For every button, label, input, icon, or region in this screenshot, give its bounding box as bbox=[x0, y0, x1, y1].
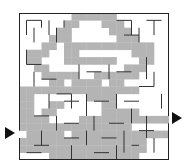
solution-cell bbox=[139, 116, 147, 124]
solution-cell bbox=[124, 28, 132, 36]
solution-cell bbox=[102, 42, 110, 50]
solution-cell bbox=[139, 42, 147, 50]
solution-cell bbox=[102, 94, 110, 102]
solution-cell bbox=[109, 145, 117, 153]
solution-cell bbox=[117, 35, 125, 43]
solution-cell bbox=[64, 35, 72, 43]
solution-cell bbox=[42, 116, 50, 124]
solution-cell bbox=[162, 116, 170, 124]
solution-cell bbox=[64, 50, 72, 58]
solution-cell bbox=[49, 138, 57, 146]
solution-cell bbox=[102, 109, 110, 117]
solution-cell bbox=[87, 116, 95, 124]
solution-cell bbox=[72, 20, 80, 28]
solution-cell bbox=[132, 153, 140, 160]
solution-cell bbox=[34, 138, 42, 146]
solution-cell bbox=[102, 153, 110, 160]
solution-cell bbox=[109, 94, 117, 102]
solution-cell bbox=[49, 35, 57, 43]
solution-cell bbox=[34, 57, 42, 65]
solution-cell bbox=[132, 64, 140, 72]
solution-cell bbox=[49, 109, 57, 117]
solution-cell bbox=[162, 131, 170, 139]
solution-cell bbox=[79, 138, 87, 146]
solution-cell bbox=[72, 42, 80, 50]
solution-cell bbox=[79, 116, 87, 124]
solution-cell bbox=[79, 145, 87, 153]
solution-cell bbox=[109, 101, 117, 109]
solution-cell bbox=[27, 109, 35, 117]
solution-cell bbox=[49, 79, 57, 87]
solution-cell bbox=[124, 153, 132, 160]
solution-cell bbox=[72, 123, 80, 131]
solution-cell bbox=[27, 131, 35, 139]
solution-cell bbox=[139, 131, 147, 139]
solution-cell bbox=[94, 138, 102, 146]
solution-cell bbox=[79, 153, 87, 160]
solution-cell bbox=[87, 13, 95, 21]
solution-cell bbox=[57, 153, 65, 160]
solution-cell bbox=[87, 79, 95, 87]
solution-cell bbox=[27, 123, 35, 131]
solution-cell bbox=[124, 64, 132, 72]
solution-cell bbox=[109, 42, 117, 50]
solution-cell bbox=[94, 145, 102, 153]
solution-cell bbox=[42, 42, 50, 50]
maze-board[interactable] bbox=[19, 13, 169, 160]
solution-cell bbox=[109, 138, 117, 146]
solution-cell bbox=[94, 153, 102, 160]
solution-cell bbox=[102, 101, 110, 109]
solution-cell bbox=[124, 131, 132, 139]
solution-cell bbox=[87, 131, 95, 139]
solution-cell bbox=[124, 109, 132, 117]
solution-cell bbox=[27, 138, 35, 146]
solution-cell bbox=[117, 109, 125, 117]
solution-cell bbox=[64, 42, 72, 50]
solution-cell bbox=[109, 72, 117, 80]
solution-cell bbox=[109, 79, 117, 87]
solution-cell bbox=[34, 116, 42, 124]
solution-cell bbox=[117, 79, 125, 87]
solution-cell bbox=[109, 87, 117, 95]
solution-cell bbox=[72, 138, 80, 146]
solution-cell bbox=[94, 79, 102, 87]
solution-cell bbox=[49, 72, 57, 80]
solution-cell bbox=[49, 101, 57, 109]
solution-cell bbox=[49, 87, 57, 95]
solution-cell bbox=[19, 138, 27, 146]
solution-cell bbox=[64, 28, 72, 36]
solution-cell bbox=[64, 138, 72, 146]
solution-cell bbox=[64, 153, 72, 160]
solution-cell bbox=[94, 42, 102, 50]
solution-cell bbox=[49, 145, 57, 153]
solution-cell bbox=[147, 50, 155, 58]
solution-cell bbox=[117, 42, 125, 50]
solution-cell bbox=[42, 123, 50, 131]
solution-cell bbox=[57, 138, 65, 146]
solution-cell bbox=[109, 123, 117, 131]
solution-cell bbox=[64, 57, 72, 65]
solution-cell bbox=[132, 42, 140, 50]
solution-cell bbox=[87, 153, 95, 160]
solution-cell bbox=[79, 131, 87, 139]
solution-cell bbox=[132, 109, 140, 117]
solution-cell bbox=[57, 79, 65, 87]
solution-cell bbox=[64, 20, 72, 28]
solution-cell bbox=[109, 131, 117, 139]
solution-cell bbox=[19, 94, 27, 102]
solution-cell bbox=[34, 87, 42, 95]
solution-cell bbox=[132, 87, 140, 95]
solution-cell bbox=[79, 123, 87, 131]
solution-cell bbox=[109, 13, 117, 21]
solution-cell bbox=[117, 20, 125, 28]
solution-cell bbox=[117, 138, 125, 146]
solution-cell bbox=[139, 50, 147, 58]
solution-cell bbox=[94, 87, 102, 95]
solution-cell bbox=[42, 131, 50, 139]
solution-cell bbox=[27, 87, 35, 95]
solution-cell bbox=[19, 87, 27, 95]
solution-cell bbox=[124, 116, 132, 124]
solution-cell bbox=[109, 116, 117, 124]
exit-arrow-icon bbox=[172, 112, 182, 124]
solution-cell bbox=[109, 20, 117, 28]
